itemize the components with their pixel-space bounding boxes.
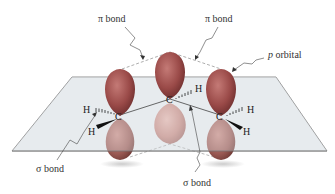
arrow-head (140, 55, 145, 60)
carbon-atom-left: C (115, 111, 122, 122)
leader-pi-left (125, 27, 143, 58)
sigma-bond-label-left: σ bond (36, 163, 64, 174)
arrow-head (195, 55, 199, 60)
p-orbital-label: p orbital (267, 49, 302, 60)
arrow-head (232, 67, 237, 72)
hydrogen-atom: H (83, 104, 90, 115)
hydrogen-atom: H (247, 104, 254, 115)
carbon-atom-right: C (216, 111, 223, 122)
shadow (201, 160, 245, 168)
hydrogen-atom: H (243, 126, 250, 137)
sigma-bond-label-center: σ bond (183, 177, 211, 188)
leader-pi-right (196, 27, 218, 58)
pi-bond-label-left: π bond (98, 13, 126, 24)
pi-bond-label-right: π bond (205, 13, 233, 24)
carbon-atom-center: C (166, 94, 173, 105)
allyl-orbital-diagram: C C C H H H H H (0, 0, 335, 194)
hydrogen-atom: H (88, 126, 95, 137)
shadow (100, 160, 144, 168)
hydrogen-atom: H (195, 83, 202, 94)
leader-p-orbital (234, 58, 264, 70)
